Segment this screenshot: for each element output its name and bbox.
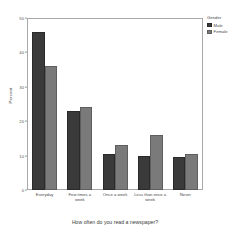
x-axis-category-label: Few times a week — [62, 192, 97, 203]
x-axis-category-label: Never — [168, 192, 203, 203]
bars-layer — [27, 18, 203, 190]
bar-male — [103, 154, 116, 190]
bar-male — [138, 156, 151, 190]
bar-male — [67, 111, 80, 190]
x-axis-category-label: Everyday — [27, 192, 62, 203]
bar-male — [173, 157, 186, 190]
bar-group — [168, 18, 203, 190]
y-axis-tick-label: 40 — [19, 50, 24, 55]
legend: Gender MaleFemale — [207, 15, 245, 36]
legend-title: Gender — [207, 15, 245, 20]
y-axis-tick-label: 20 — [19, 119, 24, 124]
bar-female — [185, 154, 198, 190]
x-axis-category-label: Once a week — [97, 192, 132, 203]
legend-item-female: Female — [207, 29, 245, 34]
bar-group — [27, 18, 62, 190]
legend-item-male: Male — [207, 23, 245, 28]
y-axis-title-text: Percent — [9, 87, 14, 103]
legend-item-label: Male — [214, 23, 223, 28]
x-axis-category-label: Less than once a week — [133, 192, 168, 203]
y-axis-tick-label: 50 — [19, 16, 24, 21]
bar-male — [32, 32, 45, 190]
legend-item-label: Female — [214, 29, 228, 34]
bar-group — [97, 18, 132, 190]
legend-entries: MaleFemale — [207, 23, 245, 35]
legend-swatch-icon — [207, 23, 212, 28]
x-axis-labels: EverydayFew times a weekOnce a weekLess … — [27, 192, 203, 203]
bar-chart: Percent 01020304050 EverydayFew times a … — [0, 0, 246, 236]
bar-female — [115, 145, 128, 190]
x-axis-title: How often do you read a newspaper? — [27, 219, 203, 225]
y-axis-ticks: 01020304050 — [14, 18, 27, 190]
bar-group — [62, 18, 97, 190]
y-axis-tick-label: 30 — [19, 84, 24, 89]
bar-female — [45, 66, 58, 190]
bar-group — [133, 18, 168, 190]
bar-female — [150, 135, 163, 190]
y-axis-tick-label: 10 — [19, 153, 24, 158]
legend-swatch-icon — [207, 30, 212, 35]
bar-female — [80, 107, 93, 190]
